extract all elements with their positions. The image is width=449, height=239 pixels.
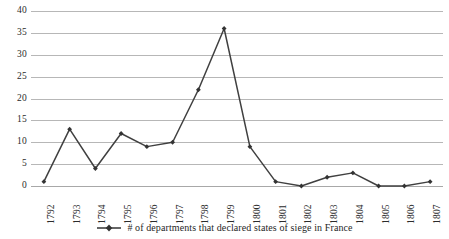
data-point-marker [196,87,201,92]
x-axis-tick-label: 1793 [63,188,77,226]
y-axis: 0510152025303540 [0,11,27,186]
data-point-marker [222,26,227,31]
x-axis-tick-label: 1797 [166,188,180,226]
x-axis-tick-label: 1803 [320,188,334,226]
y-axis-tick-label: 10 [0,138,27,148]
line-chart: 0510152025303540 17921793179417951796179… [0,0,449,239]
x-axis-tick-label: 1805 [372,188,386,226]
plot-area [31,11,443,186]
x-axis-tick-label: 1792 [37,188,51,226]
y-axis-tick-label: 25 [0,72,27,82]
line-with-diamond-marker-icon [96,223,122,233]
y-axis-tick-label: 0 [0,181,27,191]
y-axis-tick-label: 20 [0,94,27,104]
series-line [44,29,430,187]
legend-label: # of departments that declared states of… [127,222,352,233]
data-point-marker [170,140,175,145]
x-axis-tick-label: 1794 [88,188,102,226]
x-axis-tick-label: 1796 [140,188,154,226]
x-axis-tick-label: 1806 [397,188,411,226]
x-axis-tick-label: 1798 [191,188,205,226]
x-axis-tick-label: 1801 [269,188,283,226]
data-point-marker [41,179,46,184]
x-axis-tick-label: 1804 [346,188,360,226]
y-axis-tick-label: 15 [0,116,27,126]
data-point-marker [428,179,433,184]
x-axis-tick-label: 1807 [423,188,437,226]
y-axis-tick-label: 30 [0,50,27,60]
chart-legend: # of departments that declared states of… [0,222,449,233]
x-axis-tick-label: 1795 [114,188,128,226]
y-axis-tick-label: 5 [0,159,27,169]
y-axis-tick-label: 40 [0,6,27,16]
data-point-marker [325,175,330,180]
x-axis-tick-label: 1800 [243,188,257,226]
y-axis-tick-label: 35 [0,28,27,38]
x-axis-tick-label: 1799 [217,188,231,226]
x-axis-tick-label: 1802 [294,188,308,226]
series-line-group [31,11,443,186]
